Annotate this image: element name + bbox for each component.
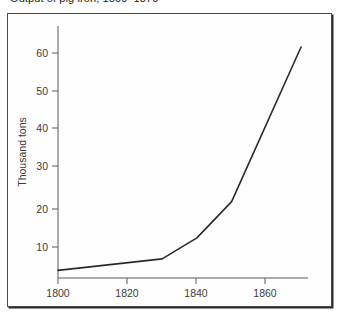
y-tick-label-50: 50: [36, 85, 48, 97]
y-axis-ticks: [52, 53, 58, 247]
x-tick-label-1860: 1860: [253, 287, 277, 299]
x-tick-label-1820: 1820: [115, 287, 139, 299]
x-tick-label-1840: 1840: [184, 287, 208, 299]
figure-frame: 60 50 40 30 20 10 Thousand tons: [7, 13, 332, 307]
y-axis-tick-labels: 60 50 40 30 20 10: [36, 47, 48, 253]
figure-root: Output of pig iron, 1800–1870 60: [0, 0, 345, 320]
y-tick-label-20: 20: [36, 203, 48, 215]
line-chart: 60 50 40 30 20 10 Thousand tons: [8, 14, 333, 308]
y-tick-label-60: 60: [36, 47, 48, 59]
x-tick-label-1800: 1800: [46, 287, 70, 299]
figure-caption-clipped: Output of pig iron, 1800–1870: [10, 0, 330, 4]
y-tick-label-30: 30: [36, 160, 48, 172]
data-line-pig-iron: [58, 47, 301, 270]
figure-caption-text: Output of pig iron, 1800–1870: [10, 0, 330, 4]
y-tick-label-10: 10: [36, 241, 48, 253]
x-axis-ticks: [58, 278, 265, 284]
x-axis-tick-labels: 1800 1820 1840 1860: [46, 287, 277, 299]
chart-svg: 60 50 40 30 20 10 Thousand tons: [8, 14, 333, 308]
y-tick-label-40: 40: [36, 122, 48, 134]
y-axis-title: Thousand tons: [16, 117, 28, 186]
